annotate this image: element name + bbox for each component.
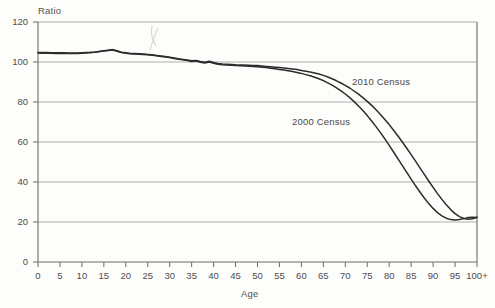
- y-tick-label-80: 80: [2, 96, 28, 107]
- curve-2010-census: [38, 50, 477, 220]
- y-tick-label-120: 120: [2, 16, 28, 27]
- x-axis-title: Age: [241, 288, 259, 299]
- gridlines: [38, 22, 477, 222]
- x-tick-label-100+: 100+: [464, 270, 490, 281]
- data-curves: [38, 50, 477, 220]
- y-axis-ticks: [33, 22, 38, 262]
- scan-artifact: [150, 26, 158, 50]
- series-label-2010-census: 2010 Census: [352, 76, 410, 87]
- y-tick-label-20: 20: [2, 216, 28, 227]
- y-tick-label-40: 40: [2, 176, 28, 187]
- plot-canvas: [0, 0, 495, 308]
- y-axis-title: Ratio: [38, 5, 61, 16]
- curve-2000-census: [38, 50, 477, 220]
- y-tick-label-0: 0: [2, 256, 28, 267]
- sex-ratio-by-age-chart: Ratio Age 2010 Census 2000 Census 020406…: [0, 0, 495, 308]
- x-axis-ticks: [38, 262, 477, 267]
- series-label-2000-census: 2000 Census: [292, 116, 350, 127]
- y-tick-label-60: 60: [2, 136, 28, 147]
- y-tick-label-100: 100: [2, 56, 28, 67]
